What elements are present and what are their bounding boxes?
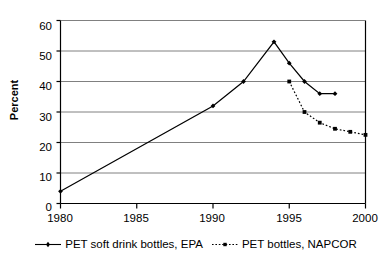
- data-series-layer: [58, 39, 367, 193]
- legend-entry-napcor: PET bottles, NAPCOR: [212, 238, 357, 250]
- chart-legend: PET soft drink bottles, EPA PET bottles,…: [0, 238, 392, 250]
- data-point-s1-2000: [364, 133, 368, 137]
- data-point-s0-1980: [58, 189, 63, 194]
- data-point-s1-1996: [303, 110, 307, 114]
- series-line-0: [61, 42, 336, 191]
- legend-label-epa: PET soft drink bottles, EPA: [65, 238, 203, 250]
- legend-marker-solid-line-icon: [35, 240, 61, 249]
- legend-label-napcor: PET bottles, NAPCOR: [242, 238, 357, 250]
- data-point-s1-1997: [318, 121, 322, 125]
- plot-area: [0, 0, 392, 267]
- data-point-s1-1995: [287, 80, 291, 84]
- legend-marker-dotted-line-icon: [212, 240, 238, 249]
- data-point-s1-1998: [333, 127, 337, 131]
- data-point-s1-1999: [348, 130, 352, 134]
- series-line-1: [289, 82, 365, 135]
- tick-marks: [57, 21, 366, 209]
- data-point-s0-1998: [333, 91, 338, 96]
- chart-figure: Percent 60 50 40 30 20 10 0 1980 1985 19…: [0, 0, 392, 267]
- gridlines: [61, 21, 366, 174]
- legend-entry-epa: PET soft drink bottles, EPA: [35, 238, 203, 250]
